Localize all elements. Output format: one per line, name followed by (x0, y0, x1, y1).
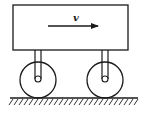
right-wheel (87, 62, 123, 98)
ground-hatching (9, 99, 138, 105)
left-strut (35, 50, 41, 79)
cart-diagram: v (0, 0, 145, 119)
right-strut (102, 50, 108, 79)
velocity-label: v (73, 12, 79, 23)
right-axle (102, 76, 108, 82)
left-axle (35, 76, 41, 82)
cart-body (13, 5, 128, 50)
left-wheel (20, 62, 56, 98)
ground (9, 98, 138, 105)
